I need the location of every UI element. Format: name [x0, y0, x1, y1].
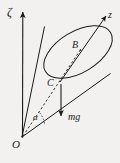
cone-generator-lower: [22, 74, 111, 138]
figure-container: ζ z B C mg α O: [0, 0, 120, 163]
label-body-axis-z: z: [108, 10, 112, 20]
base-center-point: [80, 49, 82, 51]
label-weight-mg: mg: [68, 112, 80, 122]
apex-point: [21, 136, 23, 138]
label-origin-o: O: [12, 139, 20, 150]
label-mass-center-c: C: [47, 78, 54, 88]
cone-axis-dashed: [23, 49, 81, 136]
label-vertical-axis-zeta: ζ: [7, 6, 12, 18]
label-base-center-b: B: [72, 40, 78, 50]
label-half-angle-alpha: α: [33, 113, 38, 122]
